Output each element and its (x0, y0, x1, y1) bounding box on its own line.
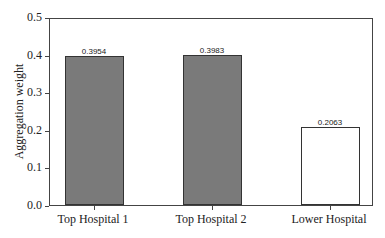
y-tick (45, 56, 49, 57)
bar-value-label: 0.3983 (200, 46, 224, 55)
x-tick-label: Top Hospital 2 (175, 212, 246, 227)
y-tick-label: 0.5 (12, 10, 42, 25)
y-tick (45, 131, 49, 132)
y-axis-label: Aggregation weight (12, 57, 27, 167)
y-tick (45, 93, 49, 94)
y-tick-label: 0.2 (12, 123, 42, 138)
x-tick-label: Top Hospital 1 (57, 212, 128, 227)
bar-value-label: 0.2063 (318, 118, 342, 127)
bar-value-label: 0.3954 (82, 47, 106, 56)
y-tick (45, 206, 49, 207)
x-tick-label: Lower Hospital (292, 212, 367, 227)
y-tick (45, 168, 49, 169)
bar-lower-hospital (301, 127, 360, 205)
plot-area: 0.39540.39830.2063 (49, 18, 373, 206)
y-tick-label: 0.4 (12, 48, 42, 63)
x-tick (212, 206, 213, 210)
x-tick (330, 206, 331, 210)
y-tick-label: 0.3 (12, 85, 42, 100)
y-tick (45, 18, 49, 19)
y-tick-label: 0.1 (12, 160, 42, 175)
x-tick (94, 206, 95, 210)
y-tick-label: 0.0 (12, 198, 42, 213)
bar-top-hospital-2 (183, 55, 242, 205)
bar-top-hospital-1 (65, 56, 124, 205)
